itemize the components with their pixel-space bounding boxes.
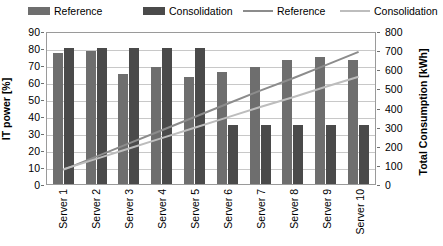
y-right-tick-mark: [377, 32, 380, 33]
y-left-tick-label: 10: [28, 162, 40, 174]
y-right-tick-label: 200: [385, 141, 403, 153]
legend-line-swatch-icon: [243, 10, 273, 12]
y-right-tick-label: 800: [385, 26, 403, 38]
x-axis-category: Server 10: [343, 187, 376, 245]
legend-item-line-3[interactable]: Consolidation: [340, 2, 438, 20]
y-axis-right: 0100200300400500600700800: [377, 32, 417, 185]
x-axis-category-label: Server 3: [123, 189, 135, 229]
y-left-tick-mark: [41, 168, 44, 169]
x-axis-category-label: Server 10: [354, 189, 366, 235]
chart-legend: ReferenceConsolidationReferenceConsolida…: [0, 0, 443, 22]
x-axis-category: Server 2: [79, 187, 112, 245]
y-left-tick-mark: [41, 83, 44, 84]
legend-item-bar-0[interactable]: Reference: [28, 2, 102, 20]
x-axis-category: Server 8: [277, 187, 310, 245]
y-left-tick-mark: [41, 117, 44, 118]
chart-container: ReferenceConsolidationReferenceConsolida…: [0, 0, 443, 246]
x-axis-category: Server 5: [178, 187, 211, 245]
y-left-tick-label: 40: [28, 111, 40, 123]
legend-bar-swatch-icon: [28, 7, 50, 15]
y-right-tick-mark: [377, 166, 380, 167]
y-left-tick-label: 0: [34, 179, 40, 191]
x-axis-category: Server 3: [112, 187, 145, 245]
x-axis-category-label: Server 6: [222, 189, 234, 229]
y-left-tick-label: 50: [28, 94, 40, 106]
legend-line-swatch-icon: [340, 10, 370, 12]
legend-item-bar-1[interactable]: Consolidation: [143, 2, 233, 20]
x-axis-category-label: Server 5: [189, 189, 201, 229]
y-right-tick-mark: [377, 89, 380, 90]
y-right-tick-mark: [377, 51, 380, 52]
x-axis-category-label: Server 4: [156, 189, 168, 229]
plot-area: [46, 32, 376, 185]
y-left-tick-mark: [41, 100, 44, 101]
legend-label: Reference: [54, 2, 102, 20]
y-right-tick-label: 700: [385, 45, 403, 57]
y-right-tick-mark: [377, 147, 380, 148]
x-axis-category-label: Server 8: [288, 189, 300, 229]
y-right-tick-label: 300: [385, 122, 403, 134]
y-left-tick-mark: [41, 151, 44, 152]
y-right-tick-label: 0: [385, 179, 391, 191]
y-left-tick-mark: [41, 134, 44, 135]
x-axis-category-label: Server 1: [57, 189, 69, 229]
y-left-tick-label: 20: [28, 145, 40, 157]
y-left-tick-label: 60: [28, 77, 40, 89]
y-right-tick-mark: [377, 109, 380, 110]
line-series-layer: [47, 33, 375, 184]
y-left-tick-mark: [41, 185, 44, 186]
y-right-tick-label: 400: [385, 103, 403, 115]
y-right-tick-mark: [377, 185, 380, 186]
y-right-tick-label: 600: [385, 64, 403, 76]
legend-label: Reference: [277, 2, 325, 20]
x-axis-category: Server 6: [211, 187, 244, 245]
y-left-tick-mark: [41, 32, 44, 33]
legend-label: Consolidation: [374, 2, 438, 20]
x-axis-category: Server 4: [145, 187, 178, 245]
y-left-tick-label: 80: [28, 43, 40, 55]
y-left-tick-label: 90: [28, 26, 40, 38]
y-axis-left: 0102030405060708090: [0, 32, 44, 185]
x-axis-category: Server 1: [46, 187, 79, 245]
y-right-tick-label: 100: [385, 160, 403, 172]
x-axis-category-label: Server 7: [255, 189, 267, 229]
y-left-tick-label: 30: [28, 128, 40, 140]
y-axis-right-title: Total Consumption [kWh]: [414, 24, 432, 199]
line-series[interactable]: [63, 77, 358, 169]
line-series[interactable]: [63, 52, 358, 170]
y-left-tick-mark: [41, 49, 44, 50]
y-left-tick-label: 70: [28, 60, 40, 72]
x-axis-categories: Server 1Server 2Server 3Server 4Server 5…: [46, 187, 376, 245]
y-right-tick-label: 500: [385, 83, 403, 95]
x-axis-category-label: Server 2: [90, 189, 102, 229]
y-axis-right-title-text: Total Consumption [kWh]: [417, 48, 429, 175]
legend-label: Consolidation: [169, 2, 233, 20]
x-axis-category: Server 9: [310, 187, 343, 245]
x-axis-category-label: Server 9: [321, 189, 333, 229]
y-right-tick-mark: [377, 128, 380, 129]
legend-bar-swatch-icon: [143, 7, 165, 15]
x-axis-category: Server 7: [244, 187, 277, 245]
legend-item-line-2[interactable]: Reference: [243, 2, 325, 20]
y-right-tick-mark: [377, 70, 380, 71]
y-left-tick-mark: [41, 66, 44, 67]
